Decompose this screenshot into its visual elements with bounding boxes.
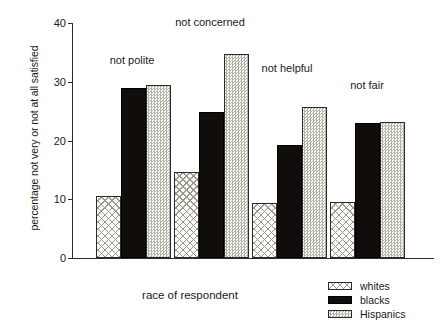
legend-item-whites: whites xyxy=(328,279,406,293)
bar-chart: percentage not very or not at all satisf… xyxy=(0,0,444,329)
x-axis-line xyxy=(72,258,434,259)
bar-group-not-fair xyxy=(330,23,405,258)
legend-label-blacks: blacks xyxy=(360,294,390,306)
y-tick-label-0: 0 xyxy=(40,253,66,264)
group-caption-not-concerned: not concerned xyxy=(163,16,257,29)
legend-label-hispanics: Hispanics xyxy=(360,308,406,320)
y-axis-title: percentage not very or not at all satisf… xyxy=(28,8,40,268)
bar-blacks-not-fair xyxy=(355,123,380,258)
bar-hispanics-not-polite xyxy=(146,85,171,258)
bar-group-not-concerned xyxy=(174,23,249,258)
bar-hispanics-not-helpful xyxy=(302,107,327,258)
bar-hispanics-not-concerned xyxy=(224,54,249,258)
y-tick-label-20: 20 xyxy=(40,136,66,147)
y-tick-label-10: 10 xyxy=(40,194,66,205)
legend-item-hispanics: Hispanics xyxy=(328,307,406,321)
bar-whites-not-helpful xyxy=(252,203,277,258)
group-caption-not-polite: not polite xyxy=(85,54,179,67)
legend: whites blacks Hispanics xyxy=(328,279,406,321)
group-caption-not-helpful: not helpful xyxy=(240,62,334,75)
bar-blacks-not-concerned xyxy=(199,112,224,258)
legend-item-blacks: blacks xyxy=(328,293,406,307)
bar-hispanics-not-fair xyxy=(380,122,405,258)
bar-whites-not-concerned xyxy=(174,172,199,258)
y-tick-label-40: 40 xyxy=(40,18,66,29)
legend-swatch-whites xyxy=(328,282,352,290)
bar-blacks-not-helpful xyxy=(277,145,302,258)
y-tick-mark-0 xyxy=(68,258,72,259)
bar-group-not-helpful xyxy=(252,23,327,258)
legend-swatch-hispanics xyxy=(328,310,352,318)
legend-label-whites: whites xyxy=(360,280,390,292)
y-tick-label-30: 30 xyxy=(40,77,66,88)
legend-swatch-blacks xyxy=(328,296,352,304)
bar-blacks-not-polite xyxy=(121,88,146,258)
x-axis-title: race of respondent xyxy=(110,289,270,301)
group-caption-not-fair: not fair xyxy=(320,79,414,92)
bar-whites-not-polite xyxy=(96,196,121,258)
bar-whites-not-fair xyxy=(330,202,355,258)
